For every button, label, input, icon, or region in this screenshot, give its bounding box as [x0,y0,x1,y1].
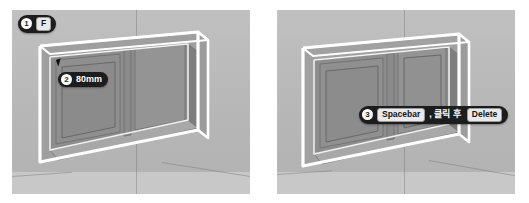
offset-step-panel: 1 F 2 80mm [0,0,262,203]
frame-geometry-right [277,10,515,194]
keycap-spacebar: Spacebar [377,108,425,122]
frame-geometry-left [12,10,250,194]
keycap-delete: Delete [467,108,503,122]
offset-dimension-value: 80mm [76,75,102,84]
badge-step-1: 1 F [18,15,56,33]
sketchup-viewport-left[interactable]: 1 F 2 80mm [12,10,250,194]
sketchup-viewport-right[interactable]: 3 Spacebar , 클릭 후 Delete [277,10,515,194]
tutorial-figure: 1 F 2 80mm [0,0,529,203]
step-number-3: 3 [362,109,373,120]
badge-step-2: 2 80mm [58,72,108,87]
step-number-2: 2 [61,74,72,85]
keycap-offset-shortcut: F [36,17,51,31]
step3-instruction-text: , 클릭 후 [429,110,463,119]
delete-step-panel: 3 Spacebar , 클릭 후 Delete [267,0,529,203]
badge-step-3: 3 Spacebar , 클릭 후 Delete [359,106,508,124]
step-number-1: 1 [21,18,32,29]
